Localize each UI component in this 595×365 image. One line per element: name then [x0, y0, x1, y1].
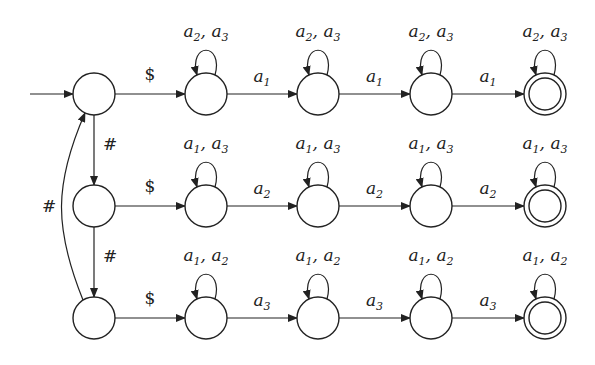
- loop-label-r3-c5: a1, a2: [522, 245, 567, 268]
- entry-label-row-1: $: [145, 64, 156, 84]
- transition-label-r3-c4: a3: [479, 290, 496, 313]
- self-loop-r1-c4: [421, 50, 442, 75]
- self-loop-r2-c4: [421, 162, 442, 187]
- transition-label-r1-c2: a1: [253, 66, 270, 89]
- loop-label-r2-c2: a1, a3: [183, 133, 228, 156]
- self-loop-r2-c5: [535, 162, 556, 187]
- accepting-state-inner-ring: [529, 302, 561, 334]
- state: [297, 297, 339, 339]
- automaton-diagram: ###$a2, a3a1a2, a3a1a2, a3a1a2, a3$a1, a…: [0, 0, 595, 365]
- transition-label-r2-c3: a2: [366, 178, 383, 201]
- entry-label-row-2: $: [145, 176, 156, 196]
- state: [185, 73, 227, 115]
- loop-label-r1-c4: a2, a3: [408, 21, 453, 44]
- transition-label-r1-c4: a1: [479, 66, 496, 89]
- state: [185, 185, 227, 227]
- state: [410, 297, 452, 339]
- state: [73, 297, 115, 339]
- transition-label-r2-c2: a2: [253, 178, 270, 201]
- state: [410, 73, 452, 115]
- self-loop-r2-c3: [308, 162, 329, 187]
- self-loop-r1-c2: [196, 50, 217, 75]
- state: [73, 73, 115, 115]
- loop-label-r3-c2: a1, a2: [183, 245, 228, 268]
- loop-label-r1-c2: a2, a3: [183, 21, 228, 44]
- transition-label-r1-c3: a1: [366, 66, 383, 89]
- self-loop-r3-c2: [196, 274, 217, 299]
- self-loop-r3-c4: [421, 274, 442, 299]
- transition-label-r2-c4: a2: [479, 178, 496, 201]
- transition-label-r3-c3: a3: [366, 290, 383, 313]
- accepting-state-inner-ring: [529, 190, 561, 222]
- back-edge-label: #: [42, 196, 56, 216]
- loop-label-r2-c5: a1, a3: [522, 133, 567, 156]
- accepting-state-inner-ring: [529, 78, 561, 110]
- loop-label-r3-c3: a1, a2: [295, 245, 340, 268]
- self-loop-r1-c5: [535, 50, 556, 75]
- hash-label-1: #: [103, 134, 117, 154]
- self-loop-r3-c3: [308, 274, 329, 299]
- state: [185, 297, 227, 339]
- hash-label-2: #: [103, 246, 117, 266]
- loop-label-r3-c4: a1, a2: [408, 245, 453, 268]
- state: [297, 185, 339, 227]
- state: [297, 73, 339, 115]
- loop-label-r2-c3: a1, a3: [295, 133, 340, 156]
- labels: ###$a2, a3a1a2, a3a1a2, a3a1a2, a3$a1, a…: [42, 21, 568, 313]
- state: [73, 185, 115, 227]
- loop-label-r1-c5: a2, a3: [522, 21, 567, 44]
- self-loop-r2-c2: [196, 162, 217, 187]
- self-loop-r3-c5: [535, 274, 556, 299]
- loop-label-r1-c3: a2, a3: [295, 21, 340, 44]
- loop-label-r2-c4: a1, a3: [408, 133, 453, 156]
- entry-label-row-3: $: [145, 288, 156, 308]
- state: [410, 185, 452, 227]
- transition-label-r3-c2: a3: [253, 290, 270, 313]
- self-loop-r1-c3: [308, 50, 329, 75]
